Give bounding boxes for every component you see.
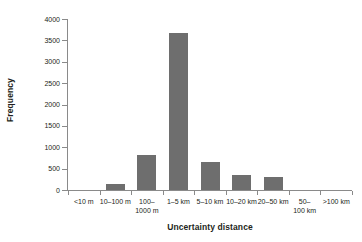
bar[interactable] — [201, 162, 220, 190]
y-axis-tick-label: 1500 — [20, 122, 60, 129]
x-axis-tick — [226, 191, 227, 195]
x-axis-tick — [131, 191, 132, 195]
x-axis-tick-label: <10 m — [68, 197, 100, 206]
y-axis-tick — [62, 83, 67, 84]
x-axis-title: Uncertainty distance — [68, 222, 352, 232]
y-axis-tick-label: 1000 — [20, 144, 60, 151]
x-axis-line — [67, 190, 352, 191]
y-axis-tick-label: 3000 — [20, 58, 60, 65]
x-axis-tick-label: 5–10 km — [194, 197, 226, 206]
x-axis-tick-label: 100– 1000 m — [131, 197, 163, 215]
y-axis-tick — [62, 19, 67, 20]
x-axis-tick-label: >100 km — [320, 197, 352, 206]
x-axis-tick — [163, 191, 164, 195]
x-axis-tick-label: 10–20 km — [226, 197, 258, 206]
y-axis-tick-label: 3500 — [20, 37, 60, 44]
y-axis-tick — [62, 62, 67, 63]
x-axis-tick-label: 1–5 km — [163, 197, 195, 206]
y-axis-tick-label: 2000 — [20, 101, 60, 108]
x-axis-tick — [352, 191, 353, 195]
bar[interactable] — [137, 155, 156, 190]
x-axis-tick — [194, 191, 195, 195]
x-axis-tick — [100, 191, 101, 195]
y-axis-tick — [62, 105, 67, 106]
y-axis-tick — [62, 147, 67, 148]
x-axis-tick-label: 10–100 m — [100, 197, 132, 206]
bar[interactable] — [264, 177, 283, 190]
x-axis-tick — [320, 191, 321, 195]
y-axis-tick-label: 2500 — [20, 80, 60, 87]
bar[interactable] — [169, 33, 188, 190]
plot-area — [68, 19, 352, 190]
y-axis-title-text: Frequency — [5, 78, 15, 122]
bar-chart-figure: Frequency 050010001500200025003000350040… — [0, 0, 362, 242]
bar[interactable] — [232, 175, 251, 190]
y-axis-tick — [62, 126, 67, 127]
y-axis-title: Frequency — [0, 0, 20, 200]
y-axis-tick-label: 0 — [20, 187, 60, 194]
bar[interactable] — [106, 184, 125, 190]
y-axis-tick-label: 500 — [20, 165, 60, 172]
x-axis-tick-label: 50– 100 km — [289, 197, 321, 215]
x-axis-tick — [289, 191, 290, 195]
y-axis-tick — [62, 169, 67, 170]
x-axis-tick — [257, 191, 258, 195]
y-axis-tick-label: 4000 — [20, 16, 60, 23]
y-axis-tick — [62, 190, 67, 191]
x-axis-tick — [68, 191, 69, 195]
y-axis-tick — [62, 40, 67, 41]
x-axis-tick-label: 20–50 km — [257, 197, 289, 206]
